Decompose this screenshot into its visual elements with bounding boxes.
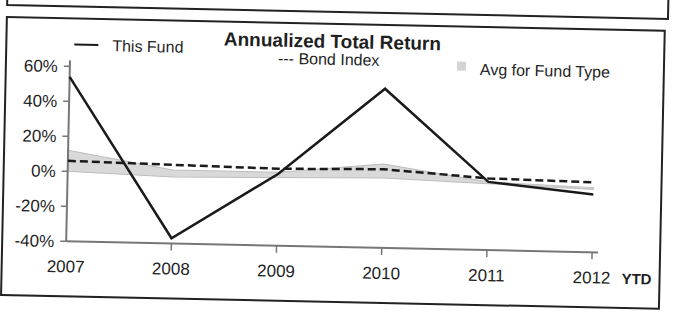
- y-tick-label: 60%: [24, 56, 58, 76]
- legend-avg-fund-type: Avg for Fund Type: [480, 61, 611, 81]
- avg-fund-type-band: [68, 150, 594, 189]
- x-tick-label: 2010: [362, 264, 400, 284]
- x-tick-label: 2011: [468, 266, 505, 286]
- ytd-label: YTD: [621, 270, 652, 288]
- x-tick-label: 2012: [572, 268, 610, 288]
- x-tick-label: 2008: [152, 259, 190, 279]
- y-tick-label: -40%: [14, 231, 54, 251]
- x-tick-label: 2007: [47, 257, 85, 277]
- chart-canvas: 60%40%20%0%-20%-40%200720082009201020112…: [0, 0, 676, 316]
- legend-band-swatch-icon: [457, 61, 466, 70]
- y-tick-label: -20%: [15, 196, 55, 216]
- y-tick-label: 20%: [22, 126, 56, 146]
- y-tick-label: 0%: [31, 162, 56, 182]
- plot-area: 60%40%20%0%-20%-40%200720082009201020112…: [14, 56, 656, 288]
- this-fund-line: [66, 77, 595, 247]
- legend-solid-line-icon: [74, 44, 98, 45]
- x-axis: [66, 241, 598, 252]
- legend-bond-index: --- Bond Index: [278, 50, 380, 69]
- x-tick-label: 2009: [257, 261, 295, 281]
- upper-panel-border: [7, 0, 669, 19]
- y-tick-label: 40%: [23, 91, 57, 111]
- legend-this-fund: This Fund: [112, 37, 183, 55]
